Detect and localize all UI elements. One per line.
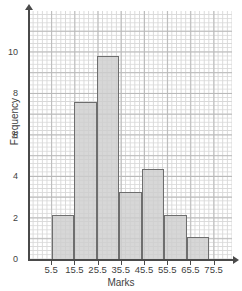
x-axis-ticks: 5.5 15.5 25.5 35.5 45.5 55.5 65.5 75.5 [0,0,242,291]
x-tick-label-2: 25.5 [88,265,107,275]
x-tick-label-1: 15.5 [65,265,84,275]
histogram-chart: 0 2 4 6 8 10 5.5 15.5 25.5 35.5 45.5 55.… [0,0,242,291]
x-tick-label-5: 55.5 [158,265,177,275]
x-tick-label-6: 65.5 [181,265,200,275]
x-tick-label-4: 45.5 [135,265,154,275]
x-tick-label-3: 35.5 [112,265,131,275]
y-axis-title: Frequency [9,77,20,167]
x-tick-label-0: 5.5 [45,265,58,275]
x-axis-title: Marks [0,277,242,288]
x-tick-label-7: 75.5 [204,265,223,275]
